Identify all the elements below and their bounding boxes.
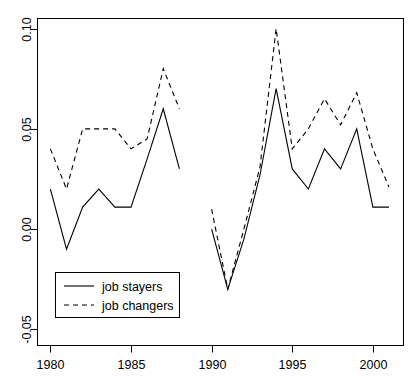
x-tick-label-4: 2000 [360, 358, 388, 372]
y-tick-label-3: 0.10 [20, 17, 34, 41]
chart-legend: job stayers job changers [56, 273, 180, 318]
x-axis-ticks [51, 346, 374, 353]
x-tick-label-3: 1995 [279, 358, 307, 372]
series-job-stayers-segment-0 [50, 109, 179, 249]
x-tick-label-1: 1985 [118, 358, 146, 372]
series-job-stayers-segment-1 [212, 89, 389, 290]
series-job-changers-segment-0 [50, 69, 179, 189]
y-tick-label-0: -0.05 [20, 315, 34, 344]
y-tick-label-2: 0.05 [20, 117, 34, 141]
x-tick-label-0: 1980 [37, 358, 65, 372]
legend-label-job-stayers: job stayers [101, 280, 162, 294]
y-tick-label-1: 0.00 [20, 217, 34, 241]
x-tick-label-2: 1990 [199, 358, 227, 372]
legend-label-job-changers: job changers [101, 299, 174, 313]
y-axis-ticks [31, 30, 38, 330]
data-series-group [50, 29, 389, 290]
line-chart: -0.050.000.050.10 19801985199019952000 j… [0, 0, 417, 389]
y-axis-tick-labels: -0.050.000.050.10 [20, 17, 34, 343]
chart-canvas: -0.050.000.050.10 19801985199019952000 j… [0, 0, 417, 389]
x-axis-tick-labels: 19801985199019952000 [37, 358, 388, 372]
